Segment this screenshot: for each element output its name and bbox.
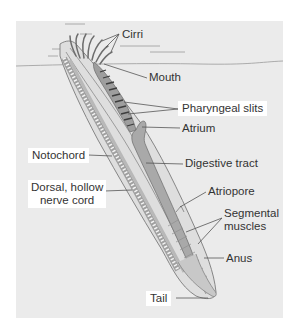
label-segmental-line2: muscles bbox=[224, 220, 279, 233]
label-notochord: Notochord bbox=[28, 148, 89, 163]
label-segmental-line1: Segmental bbox=[224, 207, 279, 220]
label-atriopore: Atriopore bbox=[208, 185, 255, 198]
water-surface bbox=[16, 24, 283, 66]
label-mouth: Mouth bbox=[149, 71, 181, 84]
label-nerve-cord-line2: nerve cord bbox=[31, 194, 103, 207]
label-anus: Anus bbox=[226, 252, 252, 265]
label-digestive-tract: Digestive tract bbox=[185, 157, 258, 170]
label-pharyngeal-slits: Pharyngeal slits bbox=[178, 101, 267, 116]
label-nerve-cord-line1: Dorsal, hollow bbox=[31, 181, 103, 194]
label-cirri: Cirri bbox=[122, 28, 143, 41]
label-segmental-muscles: Segmental muscles bbox=[224, 207, 279, 233]
label-tail: Tail bbox=[146, 291, 171, 306]
label-atrium: Atrium bbox=[182, 122, 215, 135]
label-nerve-cord: Dorsal, hollow nerve cord bbox=[28, 180, 106, 208]
